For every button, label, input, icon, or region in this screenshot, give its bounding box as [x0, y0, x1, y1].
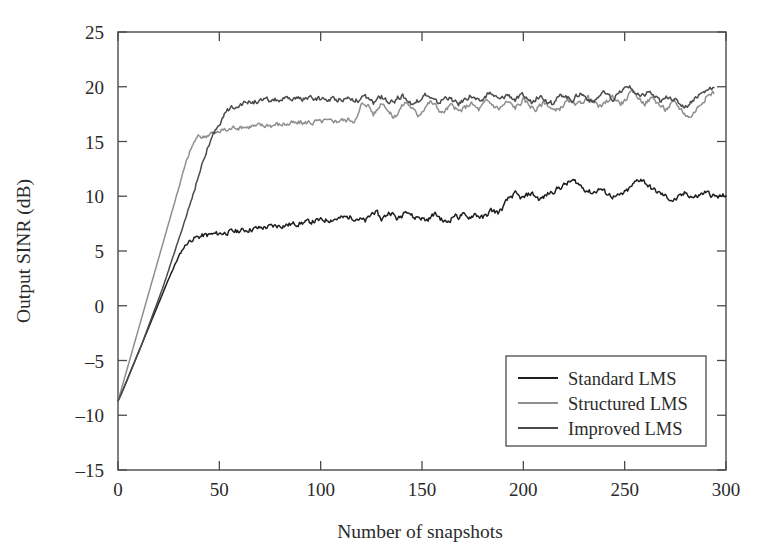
- y-tick-label: –10: [75, 405, 105, 426]
- y-tick-label: 15: [85, 132, 104, 153]
- legend-label-standard-lms: Standard LMS: [568, 369, 676, 389]
- y-tick-label: 20: [85, 77, 104, 98]
- figure-background: [0, 0, 771, 555]
- legend-label-improved-lms: Improved LMS: [568, 419, 683, 439]
- legend-label-structured-lms: Structured LMS: [568, 394, 688, 414]
- y-axis-title: Output SINR (dB): [13, 179, 35, 323]
- y-tick-label: 0: [95, 296, 105, 317]
- sinr-convergence-chart: –15–10–50510152025 050100150200250300 Nu…: [0, 0, 771, 555]
- y-tick-label: –15: [75, 460, 105, 481]
- x-tick-label: 50: [210, 479, 229, 500]
- x-tick-label: 300: [712, 479, 741, 500]
- x-tick-label: 150: [408, 479, 437, 500]
- x-tick-label: 0: [113, 479, 123, 500]
- y-tick-label: –5: [84, 351, 104, 372]
- x-tick-label: 250: [610, 479, 639, 500]
- x-tick-label: 100: [306, 479, 335, 500]
- y-tick-label: 5: [95, 241, 105, 262]
- legend[interactable]: Standard LMSStructured LMSImproved LMS: [506, 356, 706, 446]
- y-tick-label: 10: [85, 186, 104, 207]
- x-tick-label: 200: [509, 479, 538, 500]
- figure-container: –15–10–50510152025 050100150200250300 Nu…: [0, 0, 771, 555]
- x-axis-title: Number of snapshots: [337, 521, 503, 542]
- y-tick-label: 25: [85, 22, 104, 43]
